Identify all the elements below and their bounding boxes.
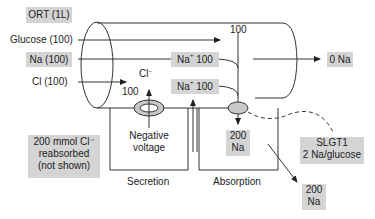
slgt1-transporter — [228, 102, 248, 114]
secretion-label: Secretion — [127, 176, 169, 188]
negative-voltage-label: Negative voltage — [126, 130, 172, 154]
slgt1-note: SLGT1 2 Na/glucose — [300, 137, 364, 164]
glucose-input-label: Glucose (100) — [10, 34, 73, 46]
absorption-label: Absorption — [213, 176, 261, 188]
title-box: ORT (1L) — [26, 7, 72, 23]
output-na-box: 0 Na — [327, 52, 353, 67]
cl-flow-value: 100 — [122, 86, 139, 98]
cl-input-label: Cl (100) — [32, 76, 68, 88]
na-input-label: Na (100) — [26, 52, 72, 67]
slgt1-connector — [248, 112, 334, 135]
cl-ion-label: Cl− — [139, 68, 152, 80]
cl-reabsorbed-note: 200 mmol Cl⁻ reabsorbed (not shown) — [28, 135, 100, 178]
na-lumen-box-2: Na+ 100 — [171, 79, 219, 94]
na-lumen-box-1: Na+ 100 — [171, 52, 219, 67]
absorbed-na-box: 200 Na — [226, 130, 250, 156]
exit-na-box: 200 Na — [302, 184, 326, 210]
combined-flow-value: 100 — [230, 24, 247, 36]
lumen-opening — [81, 22, 113, 108]
exit-flow — [268, 144, 297, 182]
